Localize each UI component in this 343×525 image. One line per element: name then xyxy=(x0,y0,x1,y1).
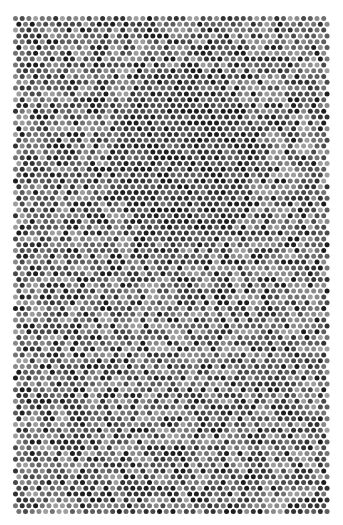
halftone-pattern xyxy=(13,16,331,516)
halftone-dots xyxy=(13,16,331,516)
